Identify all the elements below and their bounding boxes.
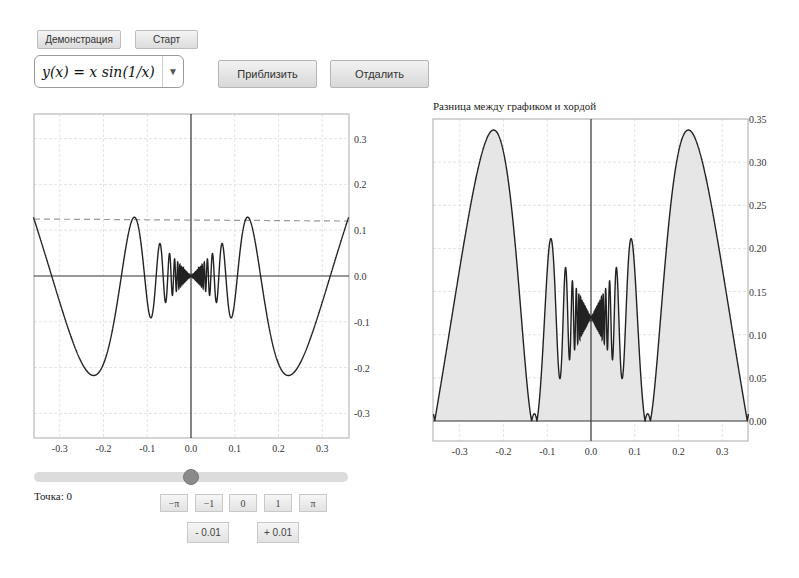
svg-text:0.0: 0.0	[354, 271, 367, 282]
function-plot[interactable]: 0.30.20.10.0-0.1-0.2-0.3-0.3-0.2-0.10.00…	[0, 0, 420, 460]
svg-text:0.1: 0.1	[354, 225, 367, 236]
step-minus-button[interactable]: - 0.01	[187, 522, 229, 543]
step-plus-button[interactable]: + 0.01	[257, 522, 299, 543]
svg-text:0.3: 0.3	[316, 443, 329, 454]
point-value-label: Точка: 0	[34, 490, 72, 502]
svg-text:-0.3: -0.3	[452, 446, 468, 457]
svg-text:0.0: 0.0	[585, 446, 598, 457]
svg-text:0.0: 0.0	[185, 443, 198, 454]
svg-text:0.2: 0.2	[354, 179, 367, 190]
svg-text:-0.3: -0.3	[52, 443, 68, 454]
difference-plot[interactable]: 0.350.300.250.200.150.100.050.00-0.3-0.2…	[400, 0, 799, 460]
svg-text:0.10: 0.10	[749, 330, 767, 341]
svg-text:0.3: 0.3	[716, 446, 729, 457]
point-slider-thumb[interactable]	[183, 469, 199, 485]
svg-text:0.2: 0.2	[672, 446, 685, 457]
svg-text:-0.1: -0.1	[139, 443, 155, 454]
set-pi-button[interactable]: π	[299, 494, 327, 512]
svg-text:0.20: 0.20	[749, 243, 767, 254]
svg-text:-0.1: -0.1	[539, 446, 555, 457]
svg-text:0.35: 0.35	[749, 114, 767, 125]
svg-text:-0.3: -0.3	[354, 408, 370, 419]
svg-text:0.15: 0.15	[749, 287, 767, 298]
set-one-button[interactable]: 1	[264, 494, 292, 512]
set-minus-one-button[interactable]: −1	[195, 494, 223, 512]
svg-text:0.00: 0.00	[749, 416, 767, 427]
svg-text:0.1: 0.1	[629, 446, 642, 457]
svg-text:-0.2: -0.2	[96, 443, 112, 454]
set-minus-pi-button[interactable]: −π	[160, 494, 188, 512]
svg-text:0.30: 0.30	[749, 157, 767, 168]
svg-text:-0.2: -0.2	[496, 446, 512, 457]
svg-text:-0.2: -0.2	[354, 363, 370, 374]
svg-text:0.3: 0.3	[354, 134, 367, 145]
svg-text:-0.1: -0.1	[354, 317, 370, 328]
set-zero-button[interactable]: 0	[229, 494, 257, 512]
svg-text:0.1: 0.1	[229, 443, 242, 454]
svg-text:0.05: 0.05	[749, 373, 767, 384]
svg-text:0.2: 0.2	[272, 443, 285, 454]
svg-text:0.25: 0.25	[749, 200, 767, 211]
